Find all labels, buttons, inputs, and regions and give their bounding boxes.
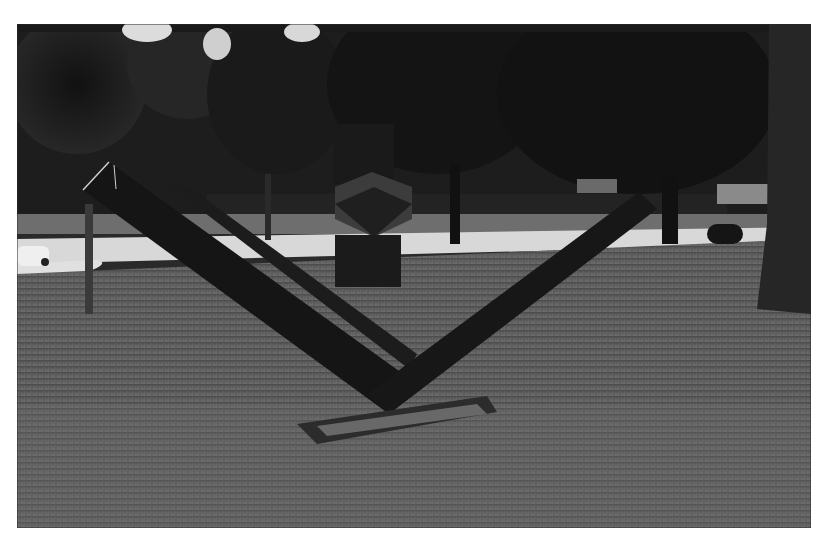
parked-car (17, 246, 49, 266)
pedestal (335, 235, 401, 287)
photo-scene (17, 24, 811, 528)
tree-trunk (85, 204, 93, 314)
photograph (17, 24, 811, 528)
